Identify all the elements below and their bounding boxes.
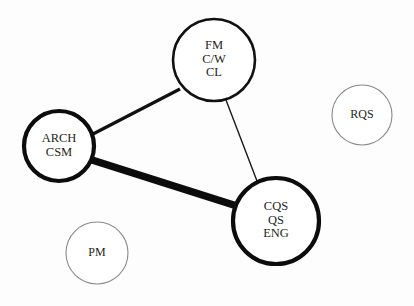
arch-csm-node-label-line-1: ARCH: [42, 131, 77, 145]
fm-node-label-line-1: FM: [205, 38, 223, 52]
cqs-qs-eng-node-label-line-3: ENG: [263, 226, 289, 240]
network-diagram: FMC/WCLARCHCSMCQSQSENGRQSPM: [0, 0, 414, 306]
edge-arch-cqs[interactable]: [92, 160, 240, 207]
rqs-node-label-line-1: RQS: [350, 107, 373, 121]
arch-csm-node[interactable]: ARCHCSM: [24, 111, 94, 181]
diagram-canvas: FMC/WCLARCHCSMCQSQSENGRQSPM: [0, 0, 414, 306]
nodes-layer: FMC/WCLARCHCSMCQSQSENGRQSPM: [24, 19, 392, 284]
edge-fm-cqs[interactable]: [226, 100, 257, 181]
cqs-qs-eng-node-label-line-1: CQS: [264, 199, 288, 213]
pm-node[interactable]: PM: [66, 222, 128, 284]
edge-arch-fm[interactable]: [93, 89, 180, 134]
fm-node[interactable]: FMC/WCL: [173, 19, 255, 101]
arch-csm-node-label-line-2: CSM: [46, 145, 72, 159]
edges-layer: [92, 89, 257, 207]
cqs-qs-eng-node-label-line-2: QS: [268, 213, 284, 227]
cqs-qs-eng-node[interactable]: CQSQSENG: [233, 178, 319, 264]
fm-node-label-line-3: CL: [206, 65, 222, 79]
fm-node-label-line-2: C/W: [202, 52, 226, 66]
rqs-node[interactable]: RQS: [332, 85, 392, 145]
pm-node-label-line-1: PM: [88, 245, 106, 259]
